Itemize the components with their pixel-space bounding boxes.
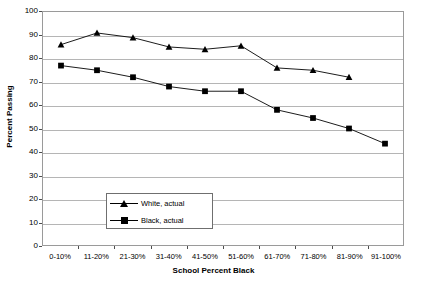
data-point-square: [58, 63, 64, 69]
series-line: [61, 66, 385, 144]
legend-item-black: Black, actual: [107, 212, 212, 229]
x-axis-tick-mark: [223, 246, 224, 249]
y-axis-tick-label: 100: [6, 7, 38, 15]
x-axis-tick-mark: [151, 246, 152, 249]
x-axis-tick-label: 21-30%: [120, 252, 146, 261]
x-axis-tick-label: 61-70%: [264, 252, 290, 261]
chart-container: 0102030405060708090100 White, actual Bla…: [0, 0, 427, 283]
x-axis-tick-label: 91-100%: [371, 252, 401, 261]
data-point-square: [130, 74, 136, 80]
x-axis-tick-label: 71-80%: [301, 252, 327, 261]
x-axis-tick-mark: [259, 246, 260, 249]
data-point-square: [310, 115, 316, 121]
x-axis-tick-mark: [78, 246, 79, 249]
data-point-square: [274, 107, 280, 113]
x-axis-title: School Percent Black: [0, 266, 427, 275]
data-point-square: [202, 88, 208, 94]
series-line: [61, 33, 349, 77]
triangle-marker-icon: [107, 197, 141, 211]
x-axis-tick-label: 31-40%: [156, 252, 182, 261]
x-axis-tick-label: 11-20%: [84, 252, 109, 261]
data-point-square: [166, 84, 172, 90]
y-axis-tick-label: 0: [6, 242, 38, 250]
plot-area: White, actual Black, actual: [42, 11, 404, 246]
square-marker-icon: [107, 214, 141, 228]
x-axis-tick-labels: 0-10%11-20%21-30%31-40%41-50%51-60%61-70…: [42, 252, 404, 264]
y-axis-tick-label: 90: [6, 31, 38, 39]
data-point-square: [346, 126, 352, 132]
x-axis-tick-mark: [295, 246, 296, 249]
y-axis-title: Percent Passing: [5, 57, 14, 177]
x-axis-tick-label: 51-60%: [228, 252, 254, 261]
x-axis-tick-mark: [368, 246, 369, 249]
data-point-square: [382, 141, 388, 147]
x-axis-tick-mark: [332, 246, 333, 249]
legend-label-black: Black, actual: [141, 216, 184, 225]
legend-label-white: White, actual: [141, 199, 184, 208]
x-axis-tick-mark: [114, 246, 115, 249]
y-axis-tick-label: 10: [6, 219, 38, 227]
legend-item-white: White, actual: [107, 195, 212, 212]
data-series-layer: [43, 12, 403, 245]
x-axis-tick-label: 0-10%: [49, 252, 71, 261]
data-point-triangle: [238, 42, 245, 48]
x-axis-tick-mark: [187, 246, 188, 249]
data-point-triangle: [94, 30, 101, 36]
data-point-triangle: [58, 41, 65, 47]
x-axis-tick-marks: [42, 246, 404, 250]
x-axis-tick-label: 41-50%: [192, 252, 218, 261]
y-axis-tick-label: 20: [6, 195, 38, 203]
data-point-square: [94, 67, 100, 73]
data-point-square: [238, 88, 244, 94]
x-axis-tick-label: 81-90%: [337, 252, 363, 261]
chart-legend: White, actual Black, actual: [106, 193, 213, 229]
